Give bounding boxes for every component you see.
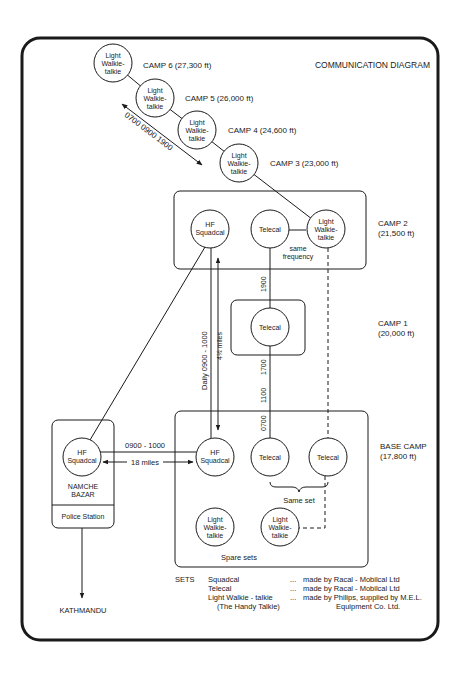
- svg-text:HF: HF: [210, 449, 219, 456]
- kathmandu-label: KATHMANDU: [60, 606, 107, 615]
- svg-text:...: ...: [290, 575, 296, 584]
- svg-text:Light: Light: [318, 218, 333, 226]
- spare-walkie-node-a: Light Walkie- talkie: [196, 508, 234, 546]
- camp5-label: CAMP 5 (26,000 ft): [185, 94, 254, 103]
- svg-text:Squadcal: Squadcal: [200, 457, 230, 465]
- camp1-telecal-node: Telecal: [251, 308, 289, 346]
- svg-text:Telecal: Telecal: [259, 226, 281, 233]
- namche-name: NAMCHE: [68, 483, 99, 490]
- svg-text:talkie: talkie: [231, 168, 247, 175]
- namche-link-distance: 18 miles: [131, 458, 159, 467]
- svg-text:Walkie-: Walkie-: [101, 60, 125, 67]
- camp1-time-1900: 1900: [260, 276, 267, 292]
- camp2-label: CAMP 2: [378, 219, 408, 228]
- camp5-walkie-node: Light Walkie- talkie: [136, 79, 174, 117]
- base-telecal-node-a: Telecal: [251, 438, 289, 476]
- svg-text:made by Racal - Mobilcal Ltd: made by Racal - Mobilcal Ltd: [303, 584, 400, 593]
- camp2-walkie-node: Light Walkie- talkie: [307, 210, 345, 248]
- svg-text:Light: Light: [105, 52, 120, 60]
- svg-text:...: ...: [290, 593, 296, 602]
- svg-text:Squadcal: Squadcal: [67, 457, 97, 465]
- svg-text:(The Handy Talkie): (The Handy Talkie): [217, 602, 280, 611]
- svg-text:talkie: talkie: [207, 532, 223, 539]
- svg-text:Telecal: Telecal: [259, 454, 281, 461]
- svg-text:Light: Light: [231, 152, 246, 160]
- svg-text:Telecal: Telecal: [208, 584, 232, 593]
- camp3-label: CAMP 3 (23,000 ft): [270, 159, 339, 168]
- svg-text:Walkie-: Walkie-: [203, 524, 227, 531]
- communication-diagram: COMMUNICATION DIAGRAM 0700 0900 1900 Lig…: [0, 0, 463, 674]
- svg-text:Light: Light: [272, 516, 287, 524]
- base-camp-altitude: (17,800 ft): [380, 452, 417, 461]
- police-station-label: Police Station: [62, 513, 105, 520]
- camp4-walkie-node: Light Walkie- talkie: [178, 111, 216, 149]
- hf-vertical-schedule: Daily 0900 - 1000: [200, 331, 209, 390]
- camp6-label: CAMP 6 (27,300 ft): [143, 61, 212, 70]
- svg-text:HF: HF: [77, 449, 86, 456]
- base-camp-label: BASE CAMP: [380, 442, 427, 451]
- camp1-time-1700: 1700: [260, 359, 267, 375]
- svg-text:made by Philips, supplied by: made by Philips, supplied by M.E.L.: [303, 593, 422, 602]
- svg-text:talkie: talkie: [318, 234, 334, 241]
- svg-text:Walkie-: Walkie-: [268, 524, 292, 531]
- svg-text:HF: HF: [205, 221, 214, 228]
- svg-text:talkie: talkie: [272, 532, 288, 539]
- svg-text:talkie: talkie: [105, 68, 121, 75]
- base-telecal-node-b: Telecal: [309, 438, 347, 476]
- svg-text:Walkie-: Walkie-: [185, 127, 209, 134]
- sets-legend: SETS Squadcal ... made by Racal - Mobilc…: [175, 575, 422, 611]
- svg-text:Light Walkie - talkie: Light Walkie - talkie: [208, 593, 273, 602]
- svg-text:Telecal: Telecal: [259, 324, 281, 331]
- camp1-label: CAMP 1: [378, 319, 408, 328]
- base-hf-squadcal-node: HF Squadcal: [196, 438, 234, 476]
- camp4-label: CAMP 4 (24,600 ft): [228, 126, 297, 135]
- same-set-label: Same set: [283, 496, 316, 505]
- spare-walkie-node-b: Light Walkie- talkie: [261, 508, 299, 546]
- namche-hf-squadcal-node: HF Squadcal: [63, 438, 101, 476]
- svg-text:Light: Light: [147, 87, 162, 95]
- camp1-altitude: (20,000 ft): [378, 329, 415, 338]
- camp3-walkie-node: Light Walkie- talkie: [220, 144, 258, 182]
- hf-vertical-distance: 4½ miles: [216, 331, 223, 360]
- camp2-altitude: (21,500 ft): [378, 229, 415, 238]
- namche-link-schedule: 0900 - 1000: [125, 441, 165, 450]
- svg-text:talkie: talkie: [189, 135, 205, 142]
- upper-schedule: 0700 0900 1900: [123, 110, 175, 152]
- camp1-time-0700: 0700: [260, 415, 267, 431]
- namche-name-2: BAZAR: [71, 491, 94, 498]
- same-frequency-note: same: [289, 245, 306, 252]
- spare-sets-label: Spare sets: [221, 553, 257, 562]
- same-set-brace: [270, 482, 328, 492]
- camp2-telecal-node: Telecal: [251, 210, 289, 248]
- svg-text:SETS: SETS: [175, 575, 195, 584]
- camp6-walkie-node: Light Walkie- talkie: [94, 44, 132, 82]
- diagram-title: COMMUNICATION DIAGRAM: [315, 60, 430, 70]
- svg-text:Light: Light: [189, 119, 204, 127]
- svg-text:Telecal: Telecal: [317, 454, 339, 461]
- camp1-time-1100: 1100: [260, 388, 267, 403]
- svg-text:talkie: talkie: [147, 103, 163, 110]
- same-frequency-note-2: frequency: [283, 253, 314, 261]
- svg-text:...: ...: [290, 584, 296, 593]
- camp2-hf-squadcal-node: HF Squadcal: [191, 210, 229, 248]
- svg-text:Walkie-: Walkie-: [314, 226, 338, 233]
- svg-text:Walkie-: Walkie-: [143, 95, 167, 102]
- svg-text:Light: Light: [207, 516, 222, 524]
- svg-text:Walkie-: Walkie-: [227, 160, 251, 167]
- svg-text:Squadcal: Squadcal: [208, 575, 240, 584]
- svg-text:Squadcal: Squadcal: [195, 229, 225, 237]
- svg-text:Equipment Co. Ltd.: Equipment Co. Ltd.: [336, 602, 400, 611]
- svg-text:made by Racal - Mobilcal Ltd: made by Racal - Mobilcal Ltd: [303, 575, 400, 584]
